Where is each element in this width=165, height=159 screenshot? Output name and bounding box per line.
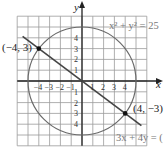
y-tick-label: 3: [74, 45, 78, 54]
circle-equation: x² + y² = 25: [109, 20, 159, 31]
point-b-label: (4, −3): [133, 102, 163, 115]
y-axis-arrow-icon: [79, 1, 85, 8]
x-axis-label: x: [155, 78, 161, 90]
y-axis-label: y: [73, 1, 79, 13]
intersection-point: [123, 111, 128, 116]
x-tick-label: −2: [55, 83, 64, 92]
x-tick-label: −4: [34, 83, 43, 92]
y-tick-label: 1: [74, 66, 78, 75]
x-tick-label: −3: [45, 83, 54, 92]
y-tick-label: 4: [74, 34, 78, 43]
intersection-point: [37, 46, 42, 51]
y-tick-label: 1: [74, 88, 78, 97]
y-tick-label: 2: [74, 99, 78, 108]
point-a-label: (−4, 3): [2, 41, 32, 54]
x-tick-label: 3: [112, 83, 116, 92]
x-tick-label: 4: [123, 83, 127, 92]
x-tick-label: 1: [90, 83, 94, 92]
y-tick-label: 2: [74, 55, 78, 64]
y-tick-label: 3: [74, 109, 78, 118]
x-tick-label: 2: [101, 83, 105, 92]
line-equation: 3x + 4y = (: [116, 132, 163, 144]
graph-figure: −4−3−2−1123443211234 y x (−4, 3) (4, −3)…: [0, 0, 165, 159]
y-tick-label: 4: [74, 120, 78, 129]
